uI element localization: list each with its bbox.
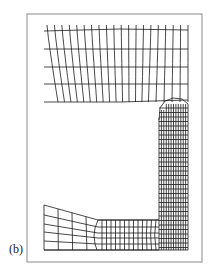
mesh-diagram: [0, 0, 210, 272]
mesh-figure: (b): [0, 0, 210, 272]
panel-label: (b): [9, 242, 23, 257]
mesh-grid: [44, 25, 188, 250]
